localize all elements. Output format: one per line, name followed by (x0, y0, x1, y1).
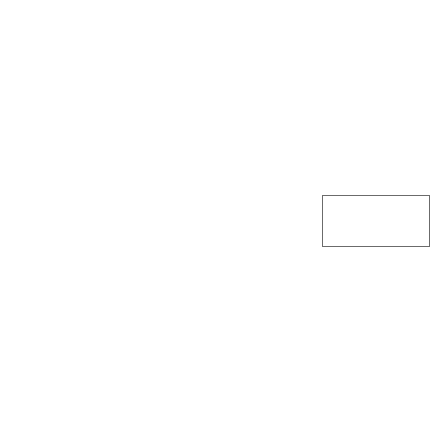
plot-svg-men (56, 16, 312, 158)
plot-area-women (56, 242, 312, 384)
chart-legend (322, 195, 430, 247)
chart-panel-men (0, 2, 330, 202)
chart-panel-women (0, 228, 330, 422)
plot-area-men (56, 16, 312, 158)
plot-svg-women (56, 242, 312, 384)
